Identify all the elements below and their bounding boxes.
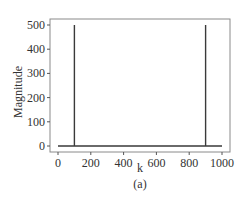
x-tick-label: 0 (55, 156, 61, 170)
y-tick-label: 100 (27, 115, 45, 129)
x-tick-label: 1000 (210, 156, 234, 170)
plot-frame (50, 19, 230, 152)
y-tick-label: 0 (39, 139, 45, 153)
x-tick-label: 400 (115, 156, 133, 170)
y-tick-label: 500 (27, 18, 45, 32)
y-tick-label: 300 (27, 66, 45, 80)
chart: 0100200300400500 02004006008001000 Magni… (0, 0, 248, 203)
series-line (58, 25, 222, 146)
x-axis-label: k (137, 161, 143, 175)
x-tick-label: 200 (82, 156, 100, 170)
x-axis-ticks: 02004006008001000 (55, 152, 234, 170)
x-tick-label: 800 (180, 156, 198, 170)
y-axis-ticks: 0100200300400500 (27, 18, 50, 153)
x-tick-label: 600 (147, 156, 165, 170)
y-tick-label: 400 (27, 42, 45, 56)
y-axis-label: Magnitude (11, 66, 25, 118)
y-tick-label: 200 (27, 91, 45, 105)
plot-border (50, 19, 230, 152)
figure-caption: (a) (133, 177, 146, 191)
data-series (58, 25, 222, 146)
